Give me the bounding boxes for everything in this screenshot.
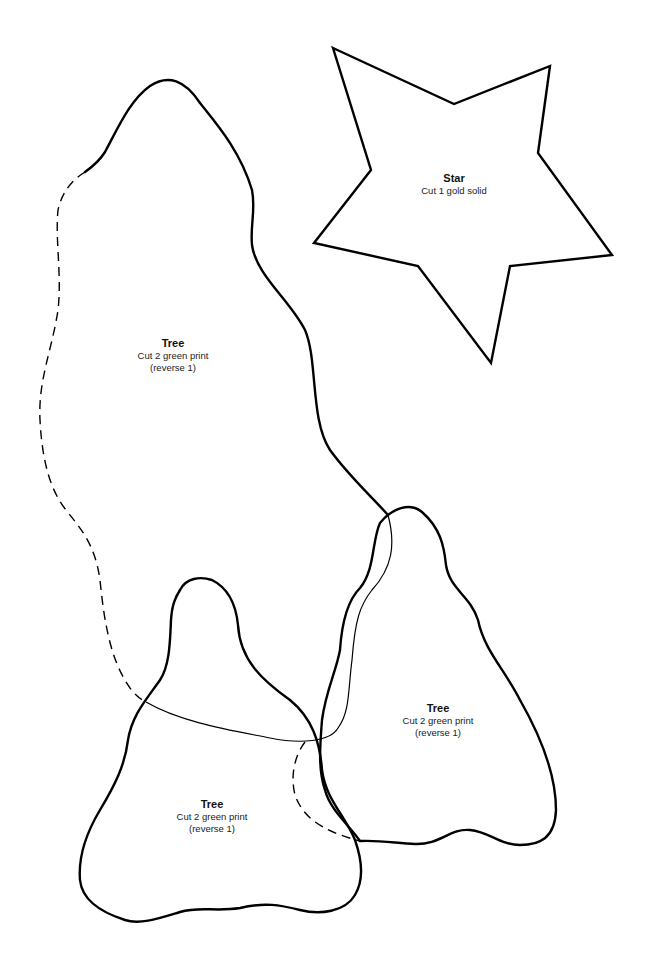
pattern-canvas: [0, 0, 647, 974]
tree-large-solid-outline: [85, 80, 388, 515]
tree-large-label: Tree Cut 2 green print (reverse 1): [138, 337, 209, 374]
tree-large-overlap-line: [146, 515, 392, 741]
tree-bottom-title: Tree: [177, 798, 248, 811]
tree-large-instruction: Cut 2 green print: [138, 350, 209, 362]
tree-right-title: Tree: [403, 702, 474, 715]
star-label: Star Cut 1 gold solid: [421, 172, 486, 197]
tree-right-note: (reverse 1): [403, 727, 474, 739]
tree-bottom-note: (reverse 1): [177, 823, 248, 835]
star-title: Star: [421, 172, 486, 185]
tree-bottom-label: Tree Cut 2 green print (reverse 1): [177, 798, 248, 835]
tree-right-outline: [320, 507, 556, 845]
tree-bottom-instruction: Cut 2 green print: [177, 811, 248, 823]
tree-right-label: Tree Cut 2 green print (reverse 1): [403, 702, 474, 739]
tree-large-dashed-outline: [40, 172, 146, 702]
star-outline: [314, 48, 612, 363]
tree-right-instruction: Cut 2 green print: [403, 715, 474, 727]
tree-large-note: (reverse 1): [138, 362, 209, 374]
tree-bottom-outline: [80, 578, 361, 922]
tree-large-title: Tree: [138, 337, 209, 350]
star-instruction: Cut 1 gold solid: [421, 185, 486, 197]
